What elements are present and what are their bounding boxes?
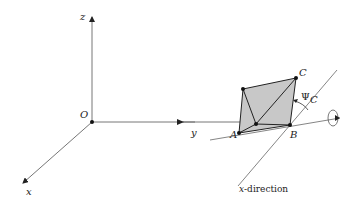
x-axis	[23, 122, 92, 183]
diagram-canvas: z x y O A B C Ψ C x-direction	[0, 0, 353, 200]
vertex-c	[294, 76, 298, 80]
angle-arrow-icon	[293, 99, 298, 103]
origin-point	[90, 120, 94, 124]
vertex-c-label: C	[299, 67, 307, 78]
y-arrow-icon	[177, 119, 184, 125]
vertex-b	[288, 123, 292, 127]
vertex-a-label: A	[229, 129, 237, 140]
angle-arc	[295, 101, 308, 110]
x-axis-label: x	[26, 186, 32, 197]
y-axis-label: y	[190, 127, 197, 138]
vertex-inner	[254, 122, 258, 126]
vertex-a	[237, 131, 241, 135]
z-axis-label: z	[79, 11, 86, 22]
vertex-top	[241, 87, 245, 91]
vertex-b-label: B	[289, 129, 297, 140]
origin-label: O	[80, 109, 88, 120]
angle-label: Ψ	[301, 91, 310, 102]
angle-subscript: C	[310, 94, 318, 105]
x-direction-caption: x-direction	[239, 184, 288, 194]
